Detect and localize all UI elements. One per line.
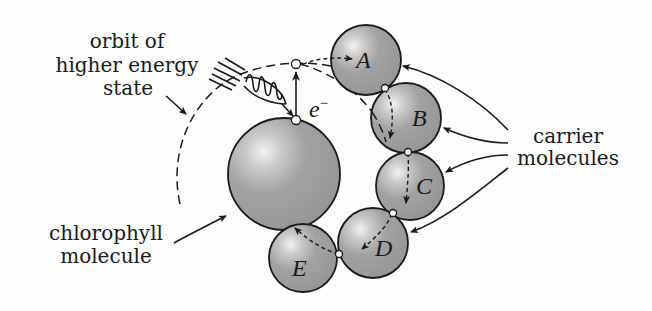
svg-text:E: E	[291, 255, 307, 281]
svg-text:D: D	[374, 235, 392, 261]
carrier-molecule-d: D	[338, 208, 408, 278]
svg-text:molecule: molecule	[60, 244, 152, 268]
svg-text:B: B	[412, 105, 427, 131]
contact-d-e	[336, 251, 343, 258]
orbit-label: orbit of higher energy state	[56, 29, 200, 100]
photosynthesis-electron-transport-diagram: A B C D E e−	[0, 0, 652, 311]
svg-text:C: C	[416, 173, 433, 199]
excited-electron	[292, 60, 301, 69]
svg-text:molecules: molecules	[517, 146, 619, 170]
svg-text:A: A	[354, 47, 371, 73]
carrier-molecule-e: E	[269, 224, 337, 292]
electron-label: e−	[309, 95, 328, 122]
svg-text:higher energy: higher energy	[56, 53, 200, 77]
svg-text:carrier: carrier	[533, 124, 603, 148]
svg-text:chlorophyll: chlorophyll	[49, 221, 163, 245]
chlorophyll-label: chlorophyll molecule	[49, 221, 163, 268]
ground-electron	[292, 116, 301, 125]
contact-b-c	[405, 149, 412, 156]
orbit-pointer-arrow	[166, 96, 186, 114]
photon-icon	[209, 58, 293, 116]
carrier-molecule-a: A	[331, 25, 401, 95]
chlorophyll-pointer-arrow	[174, 216, 226, 243]
carrier-molecule-b: B	[371, 83, 441, 153]
svg-text:orbit of: orbit of	[90, 29, 166, 53]
contact-a-b	[382, 85, 389, 92]
chlorophyll-molecule	[228, 118, 340, 230]
contact-c-d	[390, 210, 397, 217]
carrier-label: carrier molecules	[517, 124, 619, 170]
svg-text:state: state	[103, 76, 153, 100]
